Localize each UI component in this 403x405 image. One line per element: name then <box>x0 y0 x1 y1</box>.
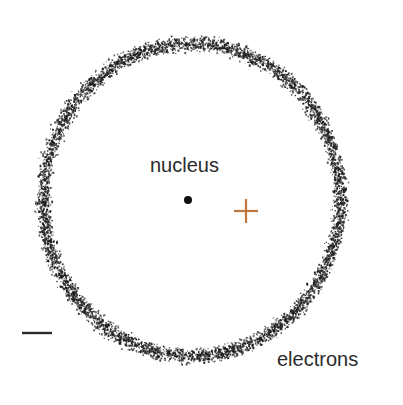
atom-diagram: nucleus electrons <box>0 0 403 405</box>
positive-charge-icon <box>234 199 258 223</box>
nucleus-label: nucleus <box>150 155 219 175</box>
electrons-label: electrons <box>277 349 358 369</box>
atom-diagram-canvas <box>0 0 403 405</box>
nucleus-dot <box>184 196 192 204</box>
